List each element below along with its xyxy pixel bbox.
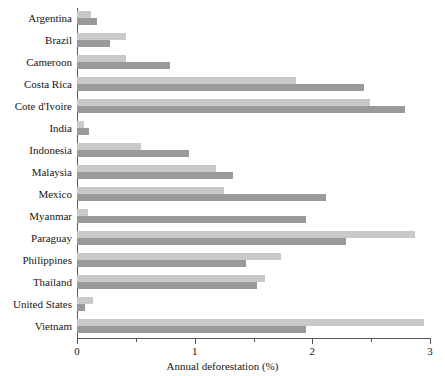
x-tick-minor: [254, 338, 255, 342]
bar-light: [77, 231, 415, 238]
x-tick-minor: [136, 338, 137, 342]
x-tick-major: [195, 338, 196, 344]
chart-row: United States: [0, 294, 445, 316]
chart-row: Indonesia: [0, 140, 445, 162]
bar-dark: [77, 84, 364, 91]
category-label: Brazil: [0, 34, 72, 46]
category-label: Argentina: [0, 12, 72, 24]
chart-row: Philippines: [0, 250, 445, 272]
chart-row: Thailand: [0, 272, 445, 294]
bar-dark: [77, 172, 233, 179]
bar-light: [77, 33, 126, 40]
category-label: Indonesia: [0, 144, 72, 156]
x-tick-label: 3: [427, 345, 433, 357]
x-tick-label: 0: [74, 345, 80, 357]
bar-light: [77, 187, 224, 194]
bar-dark: [77, 40, 110, 47]
category-label: Paraguay: [0, 232, 72, 244]
bar-dark: [77, 326, 306, 333]
bar-light: [77, 55, 126, 62]
chart-row: India: [0, 118, 445, 140]
bar-light: [77, 99, 370, 106]
bar-light: [77, 165, 216, 172]
bar-light: [77, 297, 93, 304]
chart-row: Argentina: [0, 8, 445, 30]
chart-row: Paraguay: [0, 228, 445, 250]
category-label: Philippines: [0, 254, 72, 266]
bar-dark: [77, 282, 257, 289]
category-label: United States: [0, 298, 72, 310]
bar-dark: [77, 238, 346, 245]
bar-light: [77, 275, 265, 282]
bar-dark: [77, 194, 326, 201]
bar-light: [77, 121, 84, 128]
deforestation-bar-chart: ArgentinaBrazilCameroonCosta RicaCote d'…: [0, 0, 445, 376]
bar-light: [77, 11, 91, 18]
category-label: Mexico: [0, 188, 72, 200]
chart-row: Cote d'Ivoire: [0, 96, 445, 118]
category-label: Costa Rica: [0, 78, 72, 90]
x-axis-title: Annual deforestation (%): [0, 360, 445, 372]
chart-row: Mexico: [0, 184, 445, 206]
chart-row: Brazil: [0, 30, 445, 52]
x-tick-minor: [371, 338, 372, 342]
bar-light: [77, 319, 424, 326]
bar-light: [77, 209, 88, 216]
chart-row: Vietnam: [0, 316, 445, 338]
bar-dark: [77, 216, 306, 223]
x-tick-major: [312, 338, 313, 344]
category-label: Thailand: [0, 276, 72, 288]
category-label: Malaysia: [0, 166, 72, 178]
category-label: Cote d'Ivoire: [0, 100, 72, 112]
x-tick-label: 1: [192, 345, 198, 357]
chart-row: Malaysia: [0, 162, 445, 184]
bar-dark: [77, 304, 85, 311]
bar-light: [77, 253, 281, 260]
x-tick-major: [77, 338, 78, 344]
chart-row: Cameroon: [0, 52, 445, 74]
bar-dark: [77, 18, 97, 25]
bar-dark: [77, 62, 170, 69]
category-label: Cameroon: [0, 56, 72, 68]
category-label: Vietnam: [0, 320, 72, 332]
bar-dark: [77, 106, 405, 113]
bar-dark: [77, 150, 189, 157]
bar-light: [77, 143, 141, 150]
bar-light: [77, 77, 296, 84]
x-tick-label: 2: [310, 345, 316, 357]
x-tick-major: [430, 338, 431, 344]
category-label: Myanmar: [0, 210, 72, 222]
bar-dark: [77, 260, 246, 267]
category-label: India: [0, 122, 72, 134]
chart-row: Costa Rica: [0, 74, 445, 96]
bar-dark: [77, 128, 89, 135]
chart-row: Myanmar: [0, 206, 445, 228]
